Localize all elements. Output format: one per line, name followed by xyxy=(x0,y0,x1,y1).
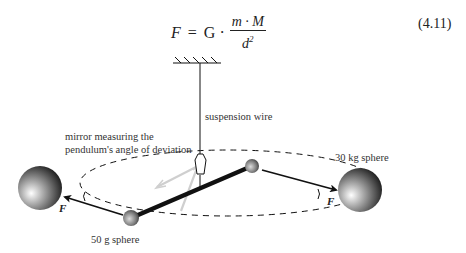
rotation-mark-right xyxy=(318,189,320,199)
large-sphere-left xyxy=(18,166,62,210)
small-sphere-right xyxy=(245,159,259,173)
large-sphere-right xyxy=(338,168,382,212)
torsion-balance-diagram xyxy=(0,0,466,253)
mirror-icon xyxy=(195,154,206,174)
label-mirror-line1: mirror measuring the xyxy=(65,131,154,143)
torsion-rod xyxy=(131,166,252,218)
label-mirror-line2: pendulum's angle of deviation xyxy=(65,144,191,156)
force-arrow-right xyxy=(262,170,336,190)
small-sphere-left xyxy=(123,210,139,226)
label-large-sphere: 30 kg sphere xyxy=(335,152,389,164)
force-arrow-left xyxy=(65,197,123,215)
ceiling-mount-icon xyxy=(173,57,221,63)
force-label-left: F xyxy=(59,202,66,214)
label-suspension-wire: suspension wire xyxy=(205,111,272,123)
label-small-sphere: 50 g sphere xyxy=(91,234,139,246)
force-label-right: F xyxy=(327,195,334,207)
rotation-mark-left xyxy=(84,192,86,201)
